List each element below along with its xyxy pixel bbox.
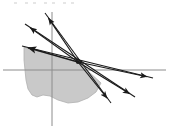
figure-container [0,0,169,134]
vertex-point [76,60,80,64]
figure-plot [0,0,169,134]
